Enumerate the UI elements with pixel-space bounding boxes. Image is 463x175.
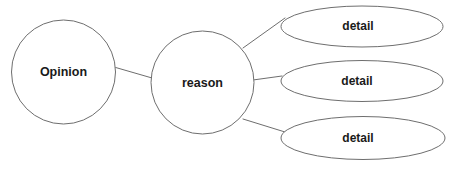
concept-web-diagram: Opinion reason detail detail detail	[0, 0, 463, 175]
connector-reason-to-detail-2	[253, 76, 282, 80]
detail-2-label: detail	[341, 74, 372, 88]
node-detail-2[interactable]: detail	[281, 61, 443, 102]
connector-reason-to-detail-1	[243, 18, 285, 48]
node-opinion[interactable]: Opinion	[12, 20, 116, 124]
connector-opinion-to-reason	[114, 67, 152, 78]
connector-reason-to-detail-3	[243, 119, 285, 132]
node-reason[interactable]: reason	[151, 31, 254, 134]
node-detail-1[interactable]: detail	[281, 6, 443, 47]
opinion-label: Opinion	[40, 65, 87, 79]
diagram-canvas: Opinion reason detail detail detail	[0, 0, 463, 175]
node-detail-3[interactable]: detail	[281, 117, 445, 160]
reason-label: reason	[182, 76, 223, 90]
detail-3-label: detail	[342, 131, 373, 145]
detail-1-label: detail	[342, 19, 373, 33]
